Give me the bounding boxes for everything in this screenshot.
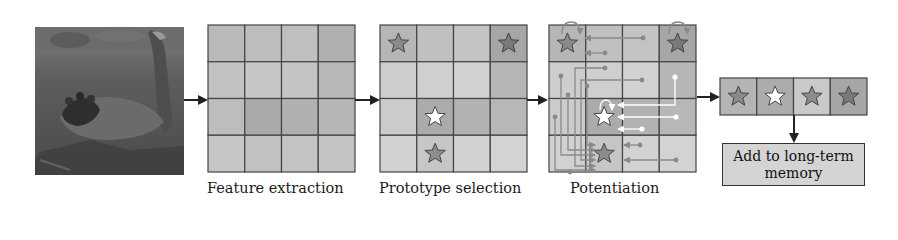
- grid-cell: [282, 62, 319, 99]
- grid-cell: [318, 135, 355, 172]
- grid-cell: [490, 62, 527, 99]
- input-image: [35, 27, 184, 175]
- grid-cell: [659, 62, 696, 99]
- long-term-memory-label: Add to long-term memory: [723, 148, 864, 182]
- grid-cell: [659, 135, 696, 172]
- grid-cell: [490, 99, 527, 136]
- grid-cell: [417, 62, 454, 99]
- grid-cell: [454, 99, 491, 136]
- grid-cell: [380, 135, 417, 172]
- grid-cell: [490, 135, 527, 172]
- grid-cell: [318, 99, 355, 136]
- grid-cell: [380, 62, 417, 99]
- feature-extraction-grid: [208, 25, 355, 172]
- grid-cell: [208, 135, 245, 172]
- grid-cell: [245, 135, 282, 172]
- grid-cell: [549, 62, 586, 99]
- grid-cell: [282, 135, 319, 172]
- grid-cell: [380, 99, 417, 136]
- grid-cell: [282, 99, 319, 136]
- grid-cell: [245, 25, 282, 62]
- long-term-memory-box: Add to long-term memory: [722, 143, 865, 186]
- grid-cell: [245, 99, 282, 136]
- grid-cell: [318, 25, 355, 62]
- grid-cell: [208, 99, 245, 136]
- caption-potentiation: Potentiation: [570, 180, 659, 196]
- grid-cell: [208, 62, 245, 99]
- prototype-selection-grid: [380, 25, 527, 172]
- grid-cell: [282, 25, 319, 62]
- grid-cell: [623, 25, 660, 62]
- caption-prototype-selection: Prototype selection: [379, 180, 521, 196]
- grid-cell: [623, 135, 660, 172]
- grid-cell: [454, 135, 491, 172]
- grid-cell: [586, 25, 623, 62]
- memory-prototype-row: [720, 78, 867, 115]
- grid-cell: [417, 25, 454, 62]
- grid-cell: [454, 25, 491, 62]
- grid-cell: [318, 62, 355, 99]
- grid-cell: [245, 62, 282, 99]
- grid-cell: [208, 25, 245, 62]
- grid-cell: [454, 62, 491, 99]
- caption-feature-extraction: Feature extraction: [207, 180, 344, 196]
